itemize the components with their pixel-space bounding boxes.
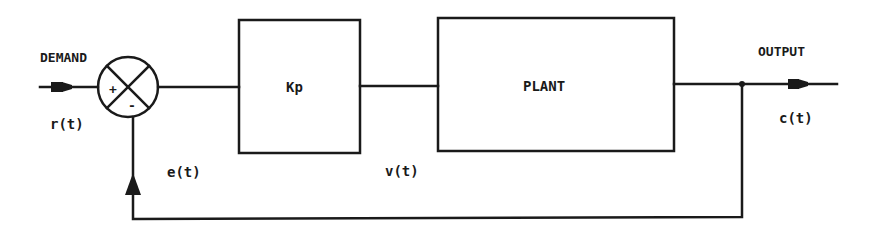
output-arrow-icon bbox=[788, 79, 808, 89]
feedback-arrow-icon bbox=[125, 173, 141, 195]
output-signal-label: c(t) bbox=[779, 110, 813, 126]
demand-label: DEMAND bbox=[40, 50, 87, 65]
error-signal-label: e(t) bbox=[167, 164, 201, 180]
control-loop-diagram: DEMAND r(t) + - Kp PLANT e(t) v(t) OUTPU… bbox=[0, 0, 877, 240]
plant-label: PLANT bbox=[523, 78, 565, 94]
plus-sign: + bbox=[109, 82, 117, 97]
controller-label: Kp bbox=[286, 79, 303, 95]
output-label: OUTPUT bbox=[758, 44, 805, 59]
minus-sign: - bbox=[128, 98, 136, 113]
input-arrow-icon bbox=[51, 82, 72, 92]
control-signal-label: v(t) bbox=[385, 163, 419, 179]
input-signal-label: r(t) bbox=[50, 116, 84, 132]
